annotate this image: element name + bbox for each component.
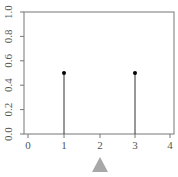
data-series	[62, 71, 137, 134]
data-point	[133, 71, 137, 75]
x-tick-label: 0	[25, 139, 31, 151]
y-tick-label: 0.0	[2, 127, 14, 141]
triangle-marker-icon	[92, 157, 108, 172]
data-point	[62, 71, 66, 75]
y-tick-label: 0.2	[2, 103, 14, 117]
y-axis	[20, 12, 24, 134]
y-tick-label: 0.8	[2, 29, 14, 43]
x-tick-label: 4	[167, 139, 173, 151]
x-tick-labels: 0 1 2 3 4	[25, 139, 173, 151]
x-tick-label: 1	[61, 139, 67, 151]
chart: 0.0 0.2 0.4 0.6 0.8 1.0 0 1 2 3 4	[0, 0, 178, 177]
y-tick-labels: 0.0 0.2 0.4 0.6 0.8 1.0	[2, 5, 14, 141]
x-tick-label: 2	[97, 139, 103, 151]
plot-frame	[24, 12, 174, 134]
y-tick-label: 1.0	[2, 5, 14, 19]
x-tick-label: 3	[132, 139, 138, 151]
y-tick-label: 0.4	[2, 78, 14, 92]
y-tick-label: 0.6	[2, 53, 14, 67]
x-axis	[28, 134, 170, 138]
